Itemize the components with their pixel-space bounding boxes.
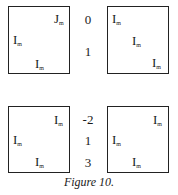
- matrix-bottom-left: Im Im Im: [8, 106, 70, 173]
- matrix-bottom-right: Im Im Im: [107, 106, 169, 173]
- row-label: 1: [78, 133, 98, 149]
- block-label: Jm: [54, 12, 64, 30]
- block-label: Im: [152, 56, 161, 74]
- matrix-top-right: Im Im Im: [107, 6, 169, 74]
- block-label: Im: [112, 12, 121, 30]
- block-label: Im: [35, 57, 44, 75]
- row-label: 0: [78, 12, 98, 28]
- block-label: Im: [13, 133, 22, 151]
- row-label: -2: [78, 112, 98, 128]
- block-label: Im: [132, 155, 141, 173]
- block-label: Im: [132, 34, 141, 52]
- block-label: Im: [112, 133, 121, 151]
- block-label: Im: [54, 113, 63, 131]
- block-label: Im: [153, 113, 162, 131]
- row-label: 1: [78, 44, 98, 60]
- block-label: Im: [13, 33, 22, 51]
- figure-caption: Figure 10.: [0, 175, 178, 190]
- block-label: Im: [35, 155, 44, 173]
- matrix-top-left: Jm Im Im: [8, 6, 70, 74]
- row-label: 3: [78, 155, 98, 171]
